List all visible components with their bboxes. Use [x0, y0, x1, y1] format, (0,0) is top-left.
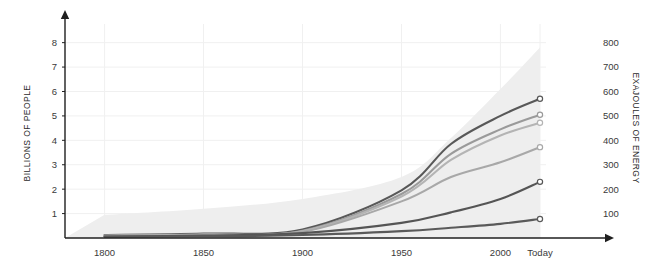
right-axis-title: EXAJOULES OF ENERGY	[631, 72, 641, 183]
y-axis-tick-label: 8	[52, 37, 57, 48]
y-axis-arrow-icon	[61, 10, 69, 19]
y-axis-tick-label: 6	[52, 86, 57, 97]
endpoint-marker-series-6	[537, 216, 542, 221]
y-axis-tick-label: 2	[52, 184, 57, 195]
right-axis-tick-label: 200	[603, 184, 619, 195]
left-axis-title: BILLIONS OF PEOPLE	[22, 85, 32, 182]
right-axis-tick-label: 500	[603, 110, 619, 121]
y-axis-tick-label: 4	[52, 135, 57, 146]
endpoint-marker-series-3	[537, 120, 542, 125]
x-axis-tick-label: 2000	[490, 247, 511, 258]
right-axis-tick-label: 300	[603, 159, 619, 170]
x-axis-tick-label: 1900	[292, 247, 313, 258]
right-axis-tick-label: 400	[603, 135, 619, 146]
endpoint-marker-series-1	[537, 96, 542, 101]
x-axis-arrow-icon	[605, 234, 614, 242]
right-axis-tick-label: 600	[603, 86, 619, 97]
y-axis-tick-label: 3	[52, 159, 57, 170]
right-axis-tick-label: 700	[603, 61, 619, 72]
population-energy-line-chart: 1234567810020030040050060070080018001850…	[0, 0, 650, 275]
right-axis-tick-label: 800	[603, 37, 619, 48]
y-axis-tick-label: 7	[52, 61, 57, 72]
endpoint-marker-series-5	[537, 179, 542, 184]
endpoint-marker-series-4	[537, 145, 542, 150]
x-axis-tick-label: 1850	[193, 247, 214, 258]
x-axis-tick-label: 1800	[94, 247, 115, 258]
x-axis-tick-label: 1950	[391, 247, 412, 258]
x-axis-tick-label: Today	[527, 247, 553, 258]
right-axis-tick-label: 100	[603, 208, 619, 219]
endpoint-marker-series-2	[537, 112, 542, 117]
chart-container: 1234567810020030040050060070080018001850…	[0, 0, 650, 275]
y-axis-tick-label: 1	[52, 208, 57, 219]
y-axis-tick-label: 5	[52, 110, 57, 121]
